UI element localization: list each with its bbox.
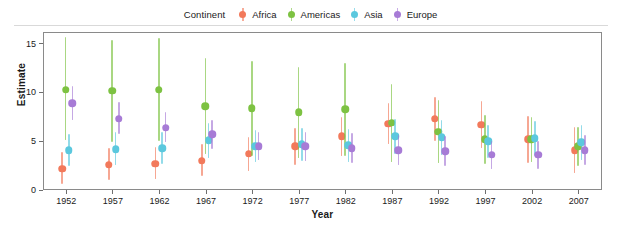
y-axis-title: Estimate: [16, 40, 27, 130]
data-point: [155, 86, 163, 94]
x-axis-tick: 1957: [103, 190, 123, 206]
x-axis-tick-label: 1982: [336, 196, 356, 206]
x-axis-tick: 1982: [336, 190, 356, 206]
x-axis-tick-mark: [392, 190, 393, 194]
data-point: [62, 86, 70, 94]
data-point: [115, 115, 123, 123]
data-point: [112, 145, 120, 153]
plot-area: [44, 33, 601, 189]
y-axis-tick-label: 5: [31, 136, 39, 146]
data-point: [108, 87, 116, 95]
x-axis-tick: 1952: [56, 190, 76, 206]
x-axis-tick-mark: [206, 190, 207, 194]
x-axis-tick: 1992: [429, 190, 449, 206]
x-axis-tick-label: 1957: [103, 196, 123, 206]
data-point: [341, 105, 349, 113]
data-point: [248, 104, 256, 112]
x-axis-tick-label: 1997: [476, 196, 496, 206]
x-axis-tick: 1962: [149, 190, 169, 206]
legend-entry-label: Africa: [252, 9, 276, 20]
x-axis-tick-label: 1987: [382, 196, 402, 206]
x-axis-title: Year: [43, 209, 602, 220]
x-axis-tick-mark: [299, 190, 300, 194]
data-point: [255, 142, 263, 150]
legend-swatch-icon: [349, 8, 360, 21]
x-axis-tick: 1997: [476, 190, 496, 206]
legend-entry-label: Asia: [364, 9, 382, 20]
data-point: [348, 144, 356, 152]
x-axis-tick: 1972: [243, 190, 263, 206]
x-axis-tick-mark: [66, 190, 67, 194]
x-axis-tick-mark: [159, 190, 160, 194]
x-axis-tick-mark: [345, 190, 346, 194]
x-axis-tick-label: 1967: [196, 196, 216, 206]
x-axis-tick: 1977: [289, 190, 309, 206]
data-point: [105, 161, 113, 169]
x-axis-tick-mark: [485, 190, 486, 194]
chart-figure: Continent AfricaAmericasAsiaEurope 05101…: [0, 0, 621, 226]
data-point: [158, 144, 166, 152]
x-axis-tick-label: 2002: [522, 196, 542, 206]
data-point: [152, 160, 160, 168]
data-point: [441, 147, 449, 155]
data-point: [295, 108, 303, 116]
data-point: [534, 151, 542, 159]
data-point: [65, 146, 73, 154]
legend-entry-label: Americas: [301, 9, 341, 20]
x-axis-tick-mark: [532, 190, 533, 194]
legend-entry-africa[interactable]: Africa: [237, 8, 276, 21]
plot-panel: [43, 32, 602, 190]
x-axis: 1952195719621967197219771982198719921997…: [43, 190, 602, 210]
x-axis-tick-mark: [578, 190, 579, 194]
x-axis-tick: 2007: [569, 190, 589, 206]
data-point: [58, 165, 66, 173]
y-axis-tick-label: 15: [26, 38, 39, 48]
legend-entry-americas[interactable]: Americas: [286, 8, 341, 21]
data-point: [395, 146, 403, 154]
data-point: [69, 99, 77, 107]
legend-entry-label: Europe: [407, 9, 438, 20]
x-axis-tick-label: 1952: [56, 196, 76, 206]
x-axis-tick-mark: [252, 190, 253, 194]
legend-swatch-icon: [392, 8, 403, 21]
x-axis-tick-label: 1962: [149, 196, 169, 206]
x-axis-tick-mark: [112, 190, 113, 194]
y-axis-tick-label: 10: [26, 87, 39, 97]
legend-swatch-icon: [286, 8, 297, 21]
y-axis-tick-label: 0: [31, 185, 39, 195]
data-point: [488, 151, 496, 159]
chart-legend: Continent AfricaAmericasAsiaEurope: [0, 6, 621, 22]
x-axis-tick-label: 2007: [569, 196, 589, 206]
data-point: [581, 146, 589, 154]
x-axis-tick: 2002: [522, 190, 542, 206]
legend-entry-asia[interactable]: Asia: [349, 8, 382, 21]
legend-separator: [14, 25, 608, 26]
legend-entry-europe[interactable]: Europe: [392, 8, 438, 21]
data-point: [202, 102, 210, 110]
x-axis-tick: 1987: [382, 190, 402, 206]
x-axis-tick: 1967: [196, 190, 216, 206]
x-axis-tick-label: 1992: [429, 196, 449, 206]
data-point: [162, 124, 170, 132]
data-point: [208, 131, 216, 139]
x-axis-tick-label: 1977: [289, 196, 309, 206]
legend-title: Continent: [184, 9, 226, 20]
x-axis-tick-mark: [438, 190, 439, 194]
x-axis-tick-label: 1972: [243, 196, 263, 206]
data-point: [302, 142, 310, 150]
legend-swatch-icon: [237, 8, 248, 21]
data-point: [198, 157, 206, 165]
